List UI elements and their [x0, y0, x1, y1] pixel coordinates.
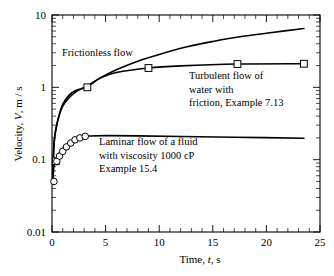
x-tick-labels: 0 5 10 15 20 25 — [49, 236, 326, 248]
marker-turbulent-4 — [301, 60, 308, 67]
annotation-turbulent-flow: Turbulent flow of water with friction, E… — [189, 70, 283, 108]
annotation-turbulent-line-0: Turbulent flow of — [189, 70, 264, 81]
x-axis-title-pre: Time, — [179, 253, 207, 265]
marker-turbulent-2 — [145, 65, 152, 72]
axis-titles: Velocity, V, m / s Time, t, s — [12, 86, 221, 265]
markers-laminar-flow — [51, 133, 89, 185]
annotation-frictionless-flow: Frictionless flow — [62, 47, 133, 58]
y-axis-title-post: , m / s — [12, 86, 24, 113]
x-tick-label-25: 25 — [315, 236, 327, 248]
marker-turbulent-1 — [84, 84, 91, 91]
y-axis-title: Velocity, V, m / s — [12, 86, 24, 161]
x-tick-label-5: 5 — [103, 236, 109, 248]
y-tick-label-1: 1 — [41, 81, 47, 93]
chart-figure: 10 1 0.1 0.01 0 5 10 15 20 25 Velocity, … — [0, 0, 334, 276]
y-axis-title-pre: Velocity, — [12, 120, 24, 161]
marker-turbulent-3 — [234, 61, 241, 68]
y-tick-labels: 10 1 0.1 0.01 — [27, 9, 47, 238]
x-tick-label-0: 0 — [49, 236, 55, 248]
x-tick-label-10: 10 — [154, 236, 166, 248]
annotation-frictionless-line-0: Frictionless flow — [62, 47, 133, 58]
x-axis-title: Time, t, s — [179, 253, 220, 265]
annotation-laminar-line-0: Laminar flow of a fluid — [99, 136, 198, 147]
x-tick-label-15: 15 — [207, 236, 219, 248]
x-tick-label-20: 20 — [261, 236, 273, 248]
annotation-laminar-line-1: with viscosity 1000 cP — [99, 150, 195, 161]
chart-svg: 10 1 0.1 0.01 0 5 10 15 20 25 Velocity, … — [0, 0, 334, 276]
marker-laminar-0 — [51, 178, 58, 185]
curve-turbulent-flow — [53, 64, 304, 182]
y-tick-label-10: 10 — [35, 9, 47, 21]
x-axis-title-post: , s — [211, 253, 221, 265]
marker-laminar-8 — [82, 133, 89, 140]
annotation-turbulent-line-2: friction, Example 7.13 — [189, 97, 283, 108]
annotation-turbulent-line-1: water with — [189, 84, 234, 95]
annotation-laminar-line-2: Example 15.4 — [99, 163, 158, 174]
y-tick-label-0.1: 0.1 — [32, 153, 46, 165]
annotation-laminar-flow: Laminar flow of a fluid with viscosity 1… — [99, 136, 200, 174]
y-tick-label-0.01: 0.01 — [27, 226, 46, 238]
